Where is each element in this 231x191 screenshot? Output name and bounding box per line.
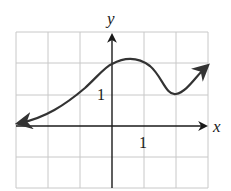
x-tick-label: 1 — [139, 134, 147, 151]
x-axis-label: x — [212, 117, 221, 136]
graph: y x 1 1 — [0, 0, 231, 191]
y-axis-label: y — [105, 9, 115, 28]
axes — [16, 35, 206, 188]
y-tick-label: 1 — [97, 86, 105, 103]
